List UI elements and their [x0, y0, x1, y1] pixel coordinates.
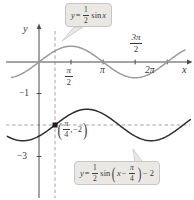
tick-label-pi: π	[100, 66, 105, 76]
formula-bottom-minus: −	[122, 168, 127, 178]
formula-bottom-function: sin	[100, 168, 110, 178]
tick-half-pi-numerator: π	[65, 66, 73, 77]
point-label-close-paren: )	[83, 120, 87, 140]
tick-label-minus-1: −1	[19, 89, 29, 99]
figure-canvas: y x π 2 π 3π 2 2π −1 −3 ( π 4 , −2 ) y =…	[0, 0, 194, 200]
formula-bottom-close-paren: )	[138, 164, 142, 181]
formula-bottom-tail: − 2	[143, 168, 154, 178]
point-label-value: −2	[73, 125, 82, 134]
y-axis-arrow-icon	[37, 24, 42, 30]
sine-curves	[7, 46, 190, 141]
formula-bottom-equals: =	[85, 168, 90, 178]
formula-top-lhs: y	[71, 10, 75, 20]
point-label-numerator: π	[63, 120, 70, 130]
point-label-denominator: 4	[64, 130, 68, 139]
formula-bottom-numerator: 1	[92, 164, 99, 174]
formula-bottom-denominator: 2	[93, 174, 97, 183]
formula-top-function: sin	[91, 10, 101, 20]
tick-half-pi-denominator: 2	[67, 77, 72, 87]
formula-callout-top: y = 1 2 sin x	[65, 3, 112, 27]
formula-bottom-pi-denominator: 4	[130, 174, 134, 183]
tick-label-two-pi: 2π	[145, 66, 155, 76]
point-label-open-paren: (	[58, 120, 62, 140]
tick-label-half-pi: π 2	[65, 66, 73, 87]
formula-top-numerator: 1	[83, 6, 90, 16]
formula-top-argument: x	[102, 10, 106, 20]
tick-label-minus-3: −3	[17, 152, 27, 162]
formula-top-equals: =	[76, 10, 81, 20]
x-axis-arrow-icon	[187, 60, 193, 65]
tick-label-three-half-pi: 3π 2	[130, 33, 142, 54]
formula-bottom-pi-numerator: π	[129, 164, 136, 174]
formula-top-denominator: 2	[84, 16, 88, 25]
tick-three-half-pi-denominator: 2	[134, 44, 139, 54]
point-coordinate-label: ( π 4 , −2 )	[57, 120, 88, 139]
formula-callout-bottom: y = 1 2 sin ( x − π 4 ) − 2	[74, 161, 160, 185]
formula-bottom-argument: x	[117, 168, 121, 178]
formula-bottom-open-paren: (	[112, 164, 116, 181]
y-axis-label: y	[23, 24, 28, 35]
callout-tail-top	[62, 27, 83, 41]
x-axis-label: x	[182, 65, 187, 76]
tick-three-half-pi-numerator: 3π	[130, 33, 142, 44]
formula-bottom-lhs: y	[80, 168, 84, 178]
